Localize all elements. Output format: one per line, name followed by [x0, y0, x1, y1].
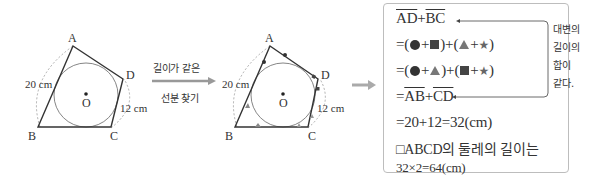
label-d-2: D: [321, 68, 330, 82]
mark-circle-aq: [283, 53, 287, 57]
solution-line-6: □ABCD의 둘레의 길이는: [396, 138, 539, 158]
label-o-2: O: [279, 96, 288, 110]
bracket-connector-icon: [384, 4, 570, 104]
solution-arrow-icon: [350, 79, 380, 91]
label-a-2: A: [265, 31, 274, 45]
label-b-2: B: [225, 129, 233, 143]
solution-box: AD+BC =(+)+(+★) =(+)+(+★) =AB+CD =20+12=…: [383, 3, 569, 173]
label-c-2: C: [308, 129, 316, 143]
solution-line-5: =20+12=32(cm): [396, 114, 492, 131]
mark-circle-ap: [262, 60, 266, 64]
mark-triangle-bs: [255, 123, 261, 127]
solution-line-7: 32×2=64(cm): [396, 160, 466, 176]
length-ab-2: 20 cm: [222, 78, 250, 90]
length-cd-2: 12 cm: [317, 102, 345, 114]
mark-square-dr: [316, 87, 320, 91]
note-text: 대변의 길이의 합이 같다.: [553, 21, 583, 93]
figure-quadrilateral-2: A D C B O 20 cm 12 cm: [0, 0, 380, 185]
